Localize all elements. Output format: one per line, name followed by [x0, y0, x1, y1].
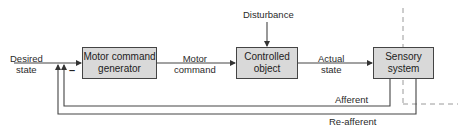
disturbance-label: Disturbance	[243, 9, 294, 20]
motor-command-generator-label: Motor command generator	[83, 51, 155, 75]
actual-state-label: Actual state	[318, 53, 344, 75]
controlled-object-block: Controlled object	[236, 47, 298, 79]
motor-command-generator-block: Motor command generator	[82, 47, 157, 79]
afferent-label: Afferent	[335, 94, 368, 105]
desired-state-label: Desired state	[10, 53, 43, 75]
controlled-object-label: Controlled object	[244, 51, 290, 75]
motor-command-label: Motor command	[174, 53, 216, 75]
sensory-system-block: Sensory system	[373, 47, 434, 79]
sensory-system-label: Sensory system	[385, 51, 422, 75]
reafferent-label: Re-afferent	[329, 116, 376, 127]
summing-minus-sign: –	[69, 64, 75, 76]
